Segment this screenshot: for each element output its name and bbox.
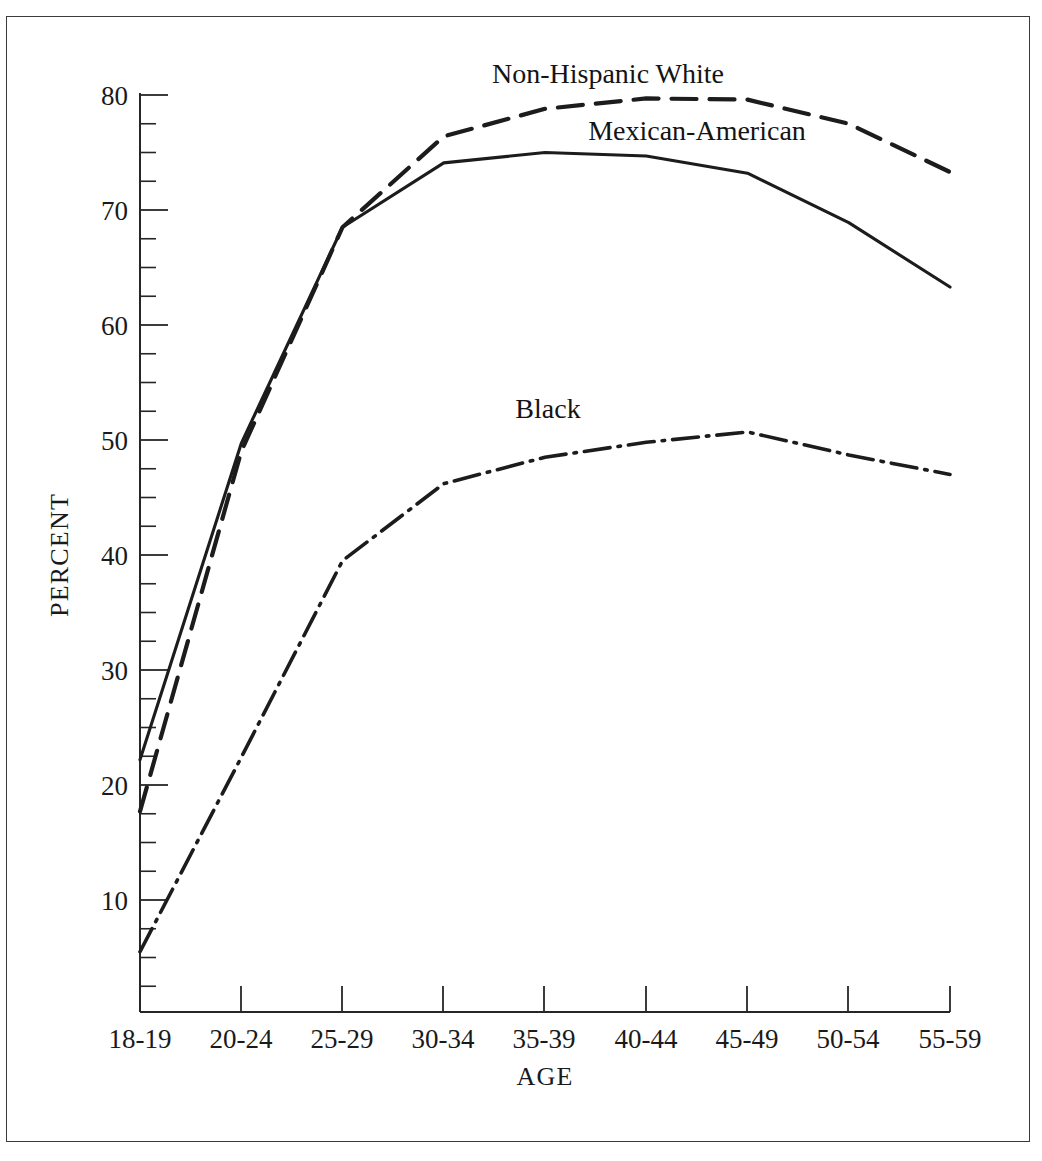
x-axis-title: AGE [516,1062,573,1091]
y-axis-label-80: 80 [101,81,128,111]
series-annotation-non-hispanic-white: Non-Hispanic White [492,58,724,89]
x-axis-label-45-49: 45-49 [716,1024,779,1054]
series-annotation-mexican-american: Mexican-American [588,115,806,146]
y-axis-label-20: 20 [101,771,128,801]
y-axis-label-50: 50 [101,426,128,456]
series-group [140,98,950,951]
series-line-non-hispanic-white [140,98,950,811]
y-axis-title: PERCENT [45,493,74,617]
x-axis-label-25-29: 25-29 [311,1024,374,1054]
x-axis-label-50-54: 50-54 [817,1024,880,1054]
series-line-black [140,432,950,952]
x-axis-label-35-39: 35-39 [513,1024,576,1054]
y-axis-label-30: 30 [101,656,128,686]
x-axis-label-30-34: 30-34 [412,1024,475,1054]
line-chart: 80 70 60 50 40 30 20 10 PERCENT 18-19 20… [0,0,1042,1161]
y-axis-label-10: 10 [101,886,128,916]
y-axis-label-60: 60 [101,311,128,341]
x-axis-label-20-24: 20-24 [210,1024,273,1054]
x-axis-label-55-59: 55-59 [919,1024,982,1054]
series-annotation-black: Black [515,393,580,424]
x-axis-label-40-44: 40-44 [615,1024,678,1054]
chart-page: 80 70 60 50 40 30 20 10 PERCENT 18-19 20… [0,0,1042,1161]
y-axis-label-70: 70 [101,196,128,226]
x-axis-label-18-19: 18-19 [109,1024,172,1054]
y-axis-label-40: 40 [101,541,128,571]
